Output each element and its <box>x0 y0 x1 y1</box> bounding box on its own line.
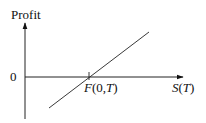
zero-label: 0 <box>10 69 17 84</box>
profit-line <box>49 32 149 108</box>
payoff-chart: Profit 0 F(0,T) S(T) <box>0 0 206 123</box>
strike-label: F(0,T) <box>83 80 118 95</box>
y-axis-label: Profit <box>11 7 41 22</box>
forward-payoff-diagram: Profit 0 F(0,T) S(T) <box>0 0 206 123</box>
x-axis-label: S(T) <box>172 80 194 95</box>
